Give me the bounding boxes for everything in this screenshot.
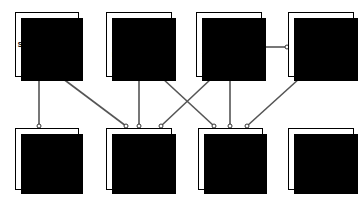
course-title-line: Computer: [16, 156, 78, 163]
edge-sc503-to-sc513: [37, 78, 41, 128]
course-node-sc912[interactable]: SC912SoftwareEngineeringProject: [198, 128, 263, 190]
course-title-line: Project: [289, 46, 353, 53]
node-drop-shadow: [21, 134, 83, 194]
course-code: SC714: [107, 137, 171, 144]
course-title-line: Architecture: [16, 166, 78, 173]
course-title-line: Component: [107, 173, 171, 180]
course-title-line: Management: [289, 56, 353, 63]
course-title-line: Software: [197, 41, 261, 48]
course-title-line: Applications of: [107, 41, 171, 48]
edge-line: [62, 78, 126, 126]
course-title-line: Software: [289, 36, 353, 43]
course-node-sc503[interactable]: SC503Switching Theory& Logic Design: [15, 12, 79, 77]
course-code: SC503: [16, 30, 78, 37]
course-node-sc513[interactable]: SC513ComputerArchitecture: [15, 128, 79, 190]
course-node-sc511[interactable]: SC511SoftwareSystems Design: [196, 12, 262, 77]
course-code: SC513: [16, 144, 78, 151]
course-title-line: The Computer: [107, 148, 171, 155]
course-title-line: Software: [199, 151, 262, 158]
course-title-line: Engineering: [199, 161, 262, 168]
course-title-line: Switching Theory: [16, 41, 78, 48]
edge-sc511-to-sc714: [159, 78, 212, 128]
edge-line: [247, 78, 300, 126]
node-drop-shadow: [21, 18, 83, 81]
edge-sc503-to-sc714: [62, 78, 128, 128]
course-title-line: Systems Design: [197, 51, 261, 58]
edge-sc511-to-sc912: [228, 78, 232, 128]
course-node-technical-electives[interactable]: TechnicalElectives: [288, 128, 354, 190]
node-drop-shadow: [202, 18, 266, 81]
course-code: SC511: [197, 30, 261, 37]
course-code: SC517: [107, 30, 171, 37]
edge-sc518-to-sc912: [245, 78, 300, 128]
course-title-line: Technical: [289, 151, 353, 158]
course-code: SC912: [199, 139, 262, 146]
node-drop-shadow: [112, 18, 176, 81]
course-title-line: Project: [199, 171, 262, 178]
edge-sc511-to-sc518: [263, 45, 289, 49]
course-code: SC518: [289, 25, 353, 32]
course-title-line: & Logic Design: [16, 51, 78, 58]
course-node-sc517[interactable]: SC517Applications ofFormal Methods: [106, 12, 172, 77]
course-title-line: System: [107, 165, 171, 172]
edge-line: [161, 78, 212, 126]
course-node-sc518[interactable]: SC518SoftwareProjectManagement: [288, 12, 354, 77]
course-title-line: as a: [107, 156, 171, 163]
course-title-line: Formal Methods: [107, 51, 171, 58]
course-prerequisite-diagram: SC503Switching Theory& Logic DesignSC517…: [0, 0, 363, 203]
edge-sc517-to-sc714: [137, 78, 141, 128]
course-title-line: Electives: [289, 161, 353, 168]
edge-line: [162, 78, 214, 126]
course-node-sc714[interactable]: SC714The Computeras aSystemComponent: [106, 128, 172, 190]
edge-sc517-to-sc912: [162, 78, 216, 128]
